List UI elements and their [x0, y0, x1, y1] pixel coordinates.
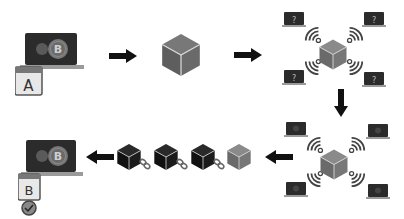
arrow-right-icon: [234, 48, 262, 62]
receiver-laptop: B B: [18, 140, 88, 219]
wifi-signal-icon: [348, 170, 366, 188]
svg-text:?: ?: [292, 16, 296, 25]
verified-check-icon: [22, 201, 36, 215]
svg-text:?: ?: [292, 74, 296, 83]
network-node-laptop-icon: ?: [362, 12, 386, 28]
sender-laptop: B A: [15, 30, 90, 100]
transaction-block-cube-icon: [160, 32, 202, 78]
network-node-laptop-icon: [284, 122, 308, 138]
arrow-left-icon: [265, 150, 293, 164]
validation-network: [270, 112, 404, 219]
arrow-right-icon: [109, 49, 137, 63]
broadcast-block-cube-icon: [318, 38, 348, 71]
new-block-cube-icon: [226, 142, 252, 172]
network-node-laptop-icon: ?: [282, 70, 306, 86]
sender-tag-label: A: [23, 77, 34, 95]
network-node-laptop-icon: ?: [362, 72, 386, 88]
arrow-left-icon: [86, 150, 114, 164]
network-node-laptop-icon: [366, 124, 390, 140]
validation-block-cube-icon: [319, 148, 349, 181]
broadcast-network: ? ? ? ?: [270, 0, 404, 100]
chain-link-icon: [176, 158, 188, 170]
network-node-laptop-icon: [366, 184, 390, 200]
receiver-tag-label: B: [25, 183, 34, 198]
chain-link-icon: [213, 158, 225, 170]
wifi-signal-icon: [348, 136, 366, 154]
network-node-laptop-icon: [284, 182, 308, 198]
chain-link-icon: [139, 158, 151, 170]
svg-text:?: ?: [372, 76, 376, 85]
blockchain: [116, 140, 266, 180]
coin-symbol: B: [54, 43, 62, 56]
svg-text:?: ?: [372, 16, 376, 25]
network-node-laptop-icon: ?: [282, 12, 306, 28]
wifi-signal-icon: [346, 58, 364, 76]
wifi-signal-icon: [346, 26, 364, 44]
coin-symbol: B: [54, 150, 62, 163]
